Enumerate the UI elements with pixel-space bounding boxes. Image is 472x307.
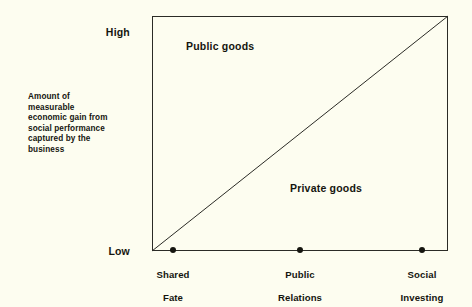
y-axis-title-line-4: social performance: [28, 124, 140, 135]
x-axis-tick-label-line-2: Relations: [245, 292, 355, 304]
x-axis-tick-label-line-1: Social: [367, 269, 472, 281]
x-axis-tick-dot: [170, 247, 176, 253]
x-axis-tick-label-social-investing: Social Investing: [367, 257, 472, 307]
y-axis-title-line-6: business: [28, 145, 140, 156]
y-axis-title: Amount of measurable economic gain from …: [28, 92, 140, 156]
x-axis-tick-label-line-1: Public: [245, 269, 355, 281]
y-axis-title-line-2: measurable: [28, 103, 140, 114]
y-axis-tick-high: High: [38, 26, 130, 38]
region-label-public-goods: Public goods: [186, 40, 254, 52]
x-axis-tick-dot: [419, 247, 425, 253]
x-axis-tick-dot: [297, 247, 303, 253]
region-label-private-goods: Private goods: [290, 182, 362, 194]
x-axis-tick-label-public-relations: Public Relations: [245, 257, 355, 307]
x-axis-tick-label-line-2: Fate: [118, 292, 228, 304]
y-axis-tick-low: Low: [38, 245, 130, 257]
x-axis-tick-label-line-1: Shared: [118, 269, 228, 281]
y-axis-title-line-1: Amount of: [28, 92, 140, 103]
y-axis-title-line-5: captured by the: [28, 134, 140, 145]
y-axis-title-line-3: economic gain from: [28, 113, 140, 124]
x-axis-tick-label-shared-fate: Shared Fate: [118, 257, 228, 307]
x-axis-tick-label-line-2: Investing: [367, 292, 472, 304]
